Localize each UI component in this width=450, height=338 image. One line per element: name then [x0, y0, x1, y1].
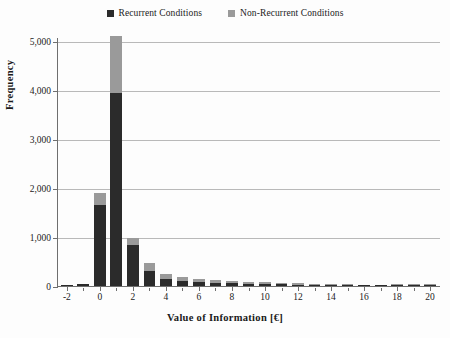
bar-segment-recurrent: [127, 245, 139, 286]
bar-segment-recurrent: [144, 271, 156, 286]
x-tick-mark-16: [364, 287, 365, 291]
bar-x-2: [127, 238, 139, 286]
bar-x-3: [144, 262, 156, 286]
legend-label-non-recurrent: Non-Recurrent Conditions: [240, 8, 343, 18]
bar-segment-non-recurrent: [127, 238, 139, 245]
bar-x-1: [110, 36, 122, 286]
x-tick-label-6: 6: [197, 292, 202, 302]
x-tick-mark-0: [100, 287, 101, 291]
x-axis-title: Value of Information [€]: [0, 312, 450, 323]
x-tick-label-0: 0: [98, 292, 103, 302]
x-minor-tick-17: [381, 288, 382, 291]
x-tick-mark-20: [430, 287, 431, 291]
legend-swatch-recurrent: [107, 10, 114, 17]
x-minor-tick-15: [348, 288, 349, 291]
x-tick-mark-10: [265, 287, 266, 291]
x-tick-label-12: 12: [293, 292, 303, 302]
x-tick-label-18: 18: [392, 292, 402, 302]
x-minor-tick-11: [282, 288, 283, 291]
bar-segment-recurrent: [160, 279, 172, 286]
x-minor-tick--1: [83, 288, 84, 291]
bar-segment-non-recurrent: [110, 36, 122, 93]
x-tick-label-8: 8: [230, 292, 235, 302]
bar-segment-recurrent: [110, 93, 122, 286]
chart-legend: Recurrent Conditions Non-Recurrent Condi…: [0, 8, 450, 18]
x-tick-label-14: 14: [326, 292, 336, 302]
y-tick-label-5000: 5,000: [30, 37, 51, 47]
x-minor-tick-5: [182, 288, 183, 291]
y-tick-mark-5000: [53, 42, 58, 43]
x-minor-tick-19: [414, 288, 415, 291]
x-tick-mark-18: [397, 287, 398, 291]
x-tick-mark-6: [199, 287, 200, 291]
x-tick-mark--2: [67, 287, 68, 291]
x-tick-mark-8: [232, 287, 233, 291]
x-minor-tick-1: [116, 288, 117, 291]
y-tick-label-0: 0: [46, 282, 51, 292]
x-tick-label-2: 2: [131, 292, 136, 302]
legend-item-recurrent: Recurrent Conditions: [107, 8, 203, 18]
plot-wrapper: 01,0002,0003,0004,0005,000 -202468101214…: [57, 42, 440, 287]
chart-figure: Recurrent Conditions Non-Recurrent Condi…: [0, 0, 450, 338]
x-axis-line: [57, 286, 440, 287]
bar-x-0: [94, 193, 106, 286]
x-tick-label-4: 4: [164, 292, 169, 302]
y-tick-mark-3000: [53, 140, 58, 141]
x-tick-label-16: 16: [359, 292, 369, 302]
y-tick-mark-2000: [53, 189, 58, 190]
y-tick-label-1000: 1,000: [30, 233, 51, 243]
x-tick-label--2: -2: [63, 292, 71, 302]
x-tick-mark-2: [133, 287, 134, 291]
bar-segment-recurrent: [94, 205, 106, 286]
bar-x-5: [177, 277, 189, 286]
legend-swatch-non-recurrent: [228, 10, 235, 17]
plot-area: 01,0002,0003,0004,0005,000 -202468101214…: [57, 42, 440, 287]
x-tick-label-10: 10: [260, 292, 270, 302]
y-tick-mark-1000: [53, 238, 58, 239]
y-tick-mark-4000: [53, 91, 58, 92]
x-tick-mark-12: [298, 287, 299, 291]
x-tick-mark-14: [331, 287, 332, 291]
bar-segment-non-recurrent: [144, 263, 156, 272]
x-minor-tick-9: [249, 288, 250, 291]
y-axis-title: Frequency: [4, 60, 15, 110]
x-tick-label-20: 20: [425, 292, 435, 302]
y-tick-label-2000: 2,000: [30, 184, 51, 194]
y-axis-line: [57, 38, 58, 287]
x-minor-tick-7: [215, 288, 216, 291]
legend-label-recurrent: Recurrent Conditions: [119, 8, 203, 18]
x-tick-mark-4: [166, 287, 167, 291]
x-minor-tick-13: [315, 288, 316, 291]
y-tick-mark-0: [53, 287, 58, 288]
bar-x-4: [160, 274, 172, 286]
x-minor-tick-3: [149, 288, 150, 291]
legend-item-non-recurrent: Non-Recurrent Conditions: [228, 8, 343, 18]
bar-x-6: [193, 279, 205, 286]
bar-segment-non-recurrent: [94, 193, 106, 205]
y-tick-label-4000: 4,000: [30, 86, 51, 96]
y-tick-label-3000: 3,000: [30, 135, 51, 145]
